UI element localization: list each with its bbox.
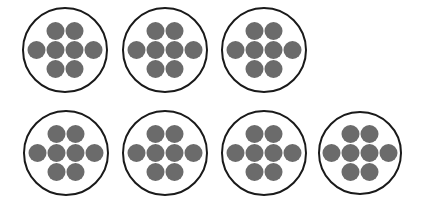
counters-diagram: [0, 0, 423, 202]
counter-dot: [28, 41, 46, 59]
counter-dot: [284, 41, 302, 59]
counter-dot: [227, 41, 245, 59]
counter-dot: [66, 60, 84, 78]
counter-dot: [147, 22, 165, 40]
counter-dot: [67, 163, 85, 181]
counter-dot: [246, 125, 264, 143]
counter-dot: [47, 22, 65, 40]
counter-dot: [48, 125, 66, 143]
counter-dot: [265, 163, 283, 181]
counter-group: [24, 111, 108, 195]
counter-dot: [380, 144, 398, 162]
counter-dot: [166, 41, 184, 59]
counter-dot: [147, 125, 165, 143]
counter-dot: [29, 144, 47, 162]
counter-dot: [47, 60, 65, 78]
counter-dot: [227, 144, 245, 162]
counter-dot: [265, 125, 283, 143]
counter-dot: [265, 144, 283, 162]
counter-dot: [66, 22, 84, 40]
counter-dot: [166, 144, 184, 162]
counter-dot: [147, 60, 165, 78]
counter-group: [23, 8, 107, 92]
counter-dot: [185, 41, 203, 59]
counter-group: [123, 8, 207, 92]
counter-dot: [66, 41, 84, 59]
counter-dot: [147, 163, 165, 181]
counter-dot: [246, 60, 264, 78]
counter-dot: [284, 144, 302, 162]
counter-group: [222, 8, 306, 92]
counter-dot: [166, 125, 184, 143]
counter-dot: [147, 41, 165, 59]
counter-dot: [361, 125, 379, 143]
counter-dot: [67, 125, 85, 143]
counter-group: [222, 111, 306, 195]
counter-dot: [67, 144, 85, 162]
counter-dot: [265, 22, 283, 40]
counter-dot: [47, 41, 65, 59]
counter-dot: [265, 60, 283, 78]
counter-dot: [166, 22, 184, 40]
counter-group: [319, 112, 401, 194]
counter-dot: [48, 144, 66, 162]
counter-dot: [246, 144, 264, 162]
counter-dot: [185, 144, 203, 162]
counter-dot: [342, 144, 360, 162]
counter-dot: [246, 22, 264, 40]
counter-dot: [147, 144, 165, 162]
counter-group: [123, 111, 207, 195]
counter-dot: [86, 144, 104, 162]
counter-dot: [166, 60, 184, 78]
counter-dot: [361, 144, 379, 162]
counter-dot: [128, 144, 146, 162]
counter-dot: [265, 41, 283, 59]
counter-dot: [342, 163, 360, 181]
counter-dot: [246, 163, 264, 181]
counter-dot: [246, 41, 264, 59]
counter-dot: [166, 163, 184, 181]
counter-dot: [361, 163, 379, 181]
counter-dot: [342, 125, 360, 143]
counter-dot: [323, 144, 341, 162]
counter-dot: [48, 163, 66, 181]
counter-dot: [85, 41, 103, 59]
counter-dot: [128, 41, 146, 59]
